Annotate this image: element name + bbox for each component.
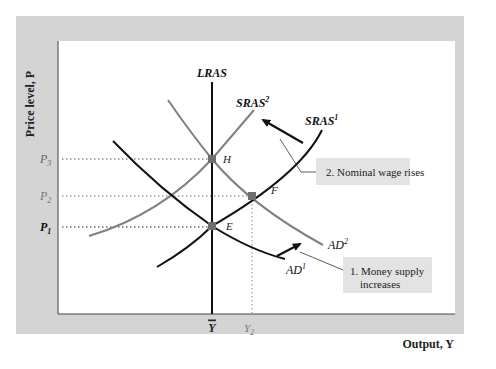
point-f-label: F [270, 184, 278, 196]
point-f-marker [248, 192, 256, 200]
point-e-marker [208, 222, 216, 230]
point-e-label: E [225, 220, 233, 232]
lras-label: LRAS [196, 66, 227, 80]
sras1-label: SRAS1 [305, 113, 338, 128]
point-h-marker [208, 155, 216, 163]
as-ad-diagram: Price level, P Output, Y P3 P2 P1 Y Y2 [0, 0, 496, 369]
money-callout-line1: 1. Money supply [350, 265, 425, 277]
y-axis-label: Price level, P [23, 71, 37, 137]
point-h-label: H [222, 153, 232, 165]
x-axis-label: Output, Y [402, 337, 454, 351]
sras2-label: SRAS2 [236, 95, 269, 110]
money-callout-line2: increases [360, 278, 400, 290]
wage-callout-text: 2. Nominal wage rises [326, 166, 424, 178]
